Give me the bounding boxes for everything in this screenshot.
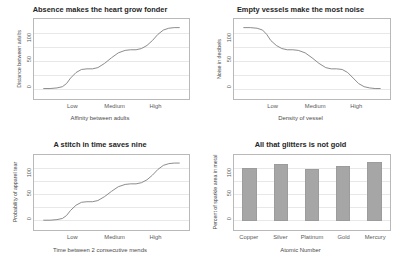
- x-tick-4-2: Platinum: [301, 234, 324, 240]
- plot-area-1: [33, 18, 190, 100]
- y-tick-3-1: 50: [26, 190, 32, 196]
- line-series-3: [34, 155, 189, 230]
- plot-box-3: [33, 154, 190, 231]
- chart-panel-3: A stitch in time saves nine Probability …: [0, 135, 200, 271]
- bar-gold: [336, 166, 350, 221]
- plot-area-4: [233, 154, 391, 231]
- plot-area-2: [233, 18, 391, 100]
- y-tick-1-0: 0: [26, 85, 32, 88]
- bar-copper: [242, 168, 256, 222]
- x-ticks-2: Low Medium High: [233, 103, 391, 113]
- line-series-2: [234, 19, 390, 99]
- y-tick-1-2: 100: [26, 33, 32, 42]
- chart-panel-1: Absence makes the heart grow fonder Dist…: [0, 0, 200, 135]
- line-series-1: [34, 19, 189, 99]
- plot-box-4: [233, 154, 391, 231]
- y-tick-2-2: 100: [226, 33, 232, 42]
- y-axis-3: Probability of apparel tear 0 50 100: [0, 154, 33, 231]
- x-tick-1-1: Medium: [104, 103, 125, 109]
- bar-series-4: [234, 155, 390, 230]
- y-tick-2-0: 0: [226, 85, 232, 88]
- x-tick-2-0: Low: [267, 103, 278, 109]
- y-tick-4-0: 0: [226, 217, 232, 220]
- x-ticks-3: Low Medium High: [33, 234, 190, 244]
- x-tick-4-3: Gold: [337, 234, 349, 240]
- bar-platinum: [305, 169, 319, 222]
- y-axis-1: Distance between adults 0 50 100: [0, 18, 33, 100]
- bar-silver: [274, 164, 288, 221]
- x-tick-3-1: Medium: [104, 234, 125, 240]
- y-axis-title-1: Distance between adults: [14, 18, 24, 100]
- x-axis-title-2: Density of vessel: [200, 115, 401, 121]
- x-tick-4-0: Copper: [239, 234, 258, 240]
- y-tick-1-1: 50: [26, 56, 32, 62]
- chart-panel-2: Empty vessels make the most noise Noise …: [200, 0, 401, 135]
- x-tick-1-2: High: [149, 103, 161, 109]
- plot-box-1: [33, 18, 190, 100]
- x-ticks-4: CopperSilverPlatinumGoldMercury: [233, 234, 391, 244]
- y-axis-2: Noise in decibels 0 50 100: [200, 18, 233, 100]
- chart-title-1: Absence makes the heart grow fonder: [0, 5, 200, 14]
- x-tick-2-2: High: [350, 103, 362, 109]
- y-tick-4-1: 50: [226, 190, 232, 196]
- y-tick-4-2: 100: [226, 168, 232, 177]
- y-axis-4: Percent of sparkle area in metal 0 50 10…: [200, 154, 233, 231]
- plot-box-2: [233, 18, 391, 100]
- y-tick-3-2: 100: [26, 168, 32, 177]
- x-tick-2-1: Medium: [305, 103, 326, 109]
- y-axis-title-2: Noise in decibels: [214, 18, 224, 100]
- x-tick-3-2: High: [149, 234, 161, 240]
- x-ticks-1: Low Medium High: [33, 103, 190, 113]
- x-tick-4-4: Mercury: [365, 234, 386, 240]
- y-tick-2-1: 50: [226, 56, 232, 62]
- chart-title-3: A stitch in time saves nine: [0, 140, 200, 149]
- x-tick-4-1: Silver: [273, 234, 288, 240]
- x-axis-title-1: Affinity between adults: [0, 115, 200, 121]
- chart-title-4: All that glitters is not gold: [200, 140, 401, 149]
- plot-area-3: [33, 154, 190, 231]
- y-axis-title-4: Percent of sparkle area in metal: [210, 154, 220, 231]
- y-tick-3-0: 0: [26, 217, 32, 220]
- chart-panel-4: All that glitters is not gold Percent of…: [200, 135, 401, 271]
- x-axis-title-3: Time between 2 consecutive mends: [0, 247, 200, 253]
- bar-mercury: [367, 162, 381, 221]
- y-axis-title-3: Probability of apparel tear: [10, 154, 20, 231]
- x-tick-1-0: Low: [67, 103, 78, 109]
- chart-grid: Absence makes the heart grow fonder Dist…: [0, 0, 401, 271]
- x-tick-3-0: Low: [67, 234, 78, 240]
- chart-title-2: Empty vessels make the most noise: [200, 5, 401, 14]
- x-axis-title-4: Atomic Number: [200, 247, 401, 253]
